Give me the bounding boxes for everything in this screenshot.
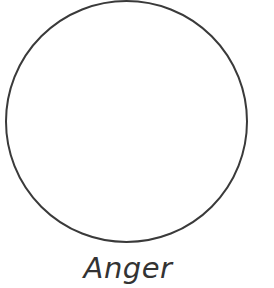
figure-label: Anger (0, 250, 256, 286)
circle-shape (0, 0, 274, 250)
circle-figure (0, 0, 274, 250)
